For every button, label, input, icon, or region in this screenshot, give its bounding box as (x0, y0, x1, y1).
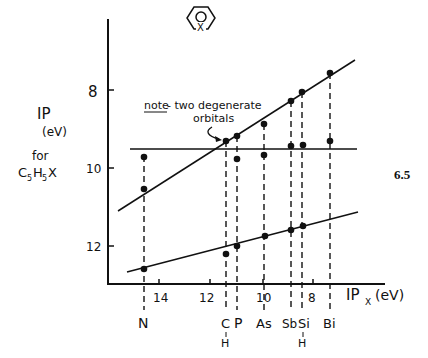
element-label-c: C (221, 316, 230, 331)
diagram-canvas: X 8 10 12 14 12 10 8 IP (eV) for C 5 H 5… (0, 0, 428, 358)
y-axis-label-formula: C 5 H 5 X (18, 165, 57, 183)
element-label-bi: Bi (323, 316, 336, 331)
svg-text:5: 5 (42, 174, 47, 183)
element-label-n: N (138, 315, 148, 331)
element-sub-label-ch-h: H (221, 337, 229, 350)
x-tick-label: 14 (153, 291, 168, 305)
figure: X 8 10 12 14 12 10 8 IP (eV) for C 5 H 5… (0, 0, 428, 358)
figure-number: 6.5 (394, 167, 411, 182)
x-tick-label: 12 (199, 291, 214, 305)
y-axis-label-unit: (eV) (42, 125, 67, 139)
element-label-as: As (256, 316, 272, 331)
y-tick-label: 10 (86, 162, 101, 176)
molecule-x-label: X (197, 22, 204, 33)
svg-text:C: C (18, 165, 27, 180)
y-axis-label-ip: IP (37, 105, 50, 123)
svg-text:5: 5 (27, 174, 32, 183)
element-sub-label-sih-h: H (298, 337, 306, 350)
element-label-si: Si (298, 316, 310, 331)
svg-text:IP: IP (346, 286, 359, 304)
svg-text:X: X (48, 165, 57, 180)
lower-correlation-line (127, 212, 358, 272)
x-axis-label: IP X (eV) (346, 286, 404, 307)
y-tick-label: 12 (86, 240, 101, 254)
degenerate-orbitals-note: note - two degenerate orbitals (144, 99, 262, 142)
svg-text:orbitals: orbitals (193, 112, 234, 125)
svg-text:X: X (365, 297, 371, 307)
svg-text:(eV): (eV) (375, 287, 404, 303)
element-label-sb: Sb (282, 317, 297, 331)
x-tick-label: 8 (308, 291, 316, 305)
svg-text:- two degenerate: - two degenerate (167, 99, 262, 112)
y-axis-label-for: for (32, 149, 49, 163)
svg-text:note: note (144, 99, 169, 112)
note-arrow-icon (208, 127, 219, 139)
element-label-p: P (234, 315, 242, 331)
y-tick-label: 8 (88, 83, 98, 101)
